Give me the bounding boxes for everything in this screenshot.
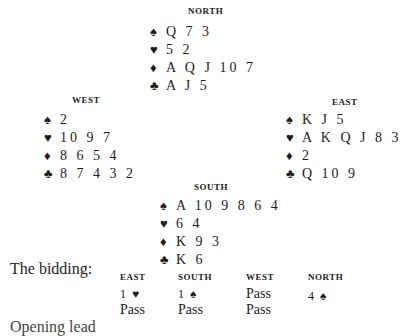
bidding-intro: The bidding: xyxy=(10,260,92,278)
bid-column-north: NORTH 4♠ xyxy=(308,272,343,304)
diamond-icon: ♦ xyxy=(286,147,302,165)
heart-icon: ♥ xyxy=(150,41,166,59)
south-hearts: ♥6 4 xyxy=(160,214,203,232)
bid-column-east: EAST 1♥ Pass xyxy=(120,272,146,318)
west-clubs: ♣8 7 4 3 2 xyxy=(44,164,136,182)
bid-column-south: SOUTH 1♠ Pass xyxy=(178,272,212,318)
bid-column-west: WEST Pass Pass xyxy=(246,272,274,318)
spade-icon: ♠ xyxy=(150,23,166,41)
diamond-icon: ♦ xyxy=(44,147,60,165)
bid: Pass xyxy=(120,302,146,318)
north-spades: ♠Q 7 3 xyxy=(150,22,212,40)
heart-icon: ♥ xyxy=(132,286,139,302)
club-icon: ♣ xyxy=(160,251,176,269)
spade-icon: ♠ xyxy=(286,111,302,129)
bid-header-south: SOUTH xyxy=(178,272,212,286)
bid: 1♠ xyxy=(178,286,212,302)
bid-header-west: WEST xyxy=(246,272,274,286)
east-label: EAST xyxy=(332,97,358,107)
north-diamonds: ♦A Q J 10 7 xyxy=(150,58,256,76)
spade-icon: ♠ xyxy=(160,197,176,215)
bid: 4♠ xyxy=(308,288,343,304)
heart-icon: ♥ xyxy=(44,129,60,147)
spade-icon: ♠ xyxy=(44,111,60,129)
bid: Pass xyxy=(246,286,274,302)
east-diamonds: ♦2 xyxy=(286,146,312,164)
club-icon: ♣ xyxy=(44,165,60,183)
east-clubs: ♣Q 10 9 xyxy=(286,164,358,182)
bid: Pass xyxy=(178,302,212,318)
east-hearts: ♥A K Q J 8 3 xyxy=(286,128,402,146)
west-diamonds: ♦8 6 5 4 xyxy=(44,146,120,164)
south-spades: ♠A 10 9 8 6 4 xyxy=(160,196,281,214)
heart-icon: ♥ xyxy=(286,129,302,147)
bid-header-east: EAST xyxy=(120,272,146,286)
south-label: SOUTH xyxy=(194,182,228,192)
spade-icon: ♠ xyxy=(320,288,326,304)
north-clubs: ♣A J 5 xyxy=(150,76,210,94)
north-hearts: ♥5 2 xyxy=(150,40,193,58)
bid: Pass xyxy=(246,302,274,318)
east-spades: ♠K J 5 xyxy=(286,110,347,128)
west-label: WEST xyxy=(72,95,100,105)
north-label: NORTH xyxy=(188,6,223,16)
spade-icon: ♠ xyxy=(190,286,196,302)
south-diamonds: ♦K 9 3 xyxy=(160,232,222,250)
south-clubs: ♣K 6 xyxy=(160,250,206,268)
club-icon: ♣ xyxy=(150,77,166,95)
club-icon: ♣ xyxy=(286,165,302,183)
bid-header-north: NORTH xyxy=(308,272,343,286)
cutoff-text: Opening lead xyxy=(10,318,96,336)
west-spades: ♠2 xyxy=(44,110,70,128)
bid: 1♥ xyxy=(120,286,146,302)
west-hearts: ♥10 9 7 xyxy=(44,128,113,146)
diamond-icon: ♦ xyxy=(160,233,176,251)
heart-icon: ♥ xyxy=(160,215,176,233)
diamond-icon: ♦ xyxy=(150,59,166,77)
